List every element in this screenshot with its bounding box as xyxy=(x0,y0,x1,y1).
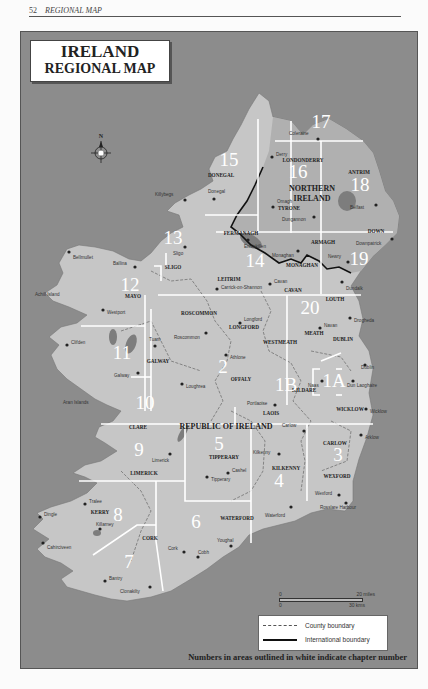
town-label: Loughrea xyxy=(186,384,206,389)
chapter-number: 7 xyxy=(124,551,134,572)
town-label: Bellmullet xyxy=(73,255,94,260)
town-label: Tuam xyxy=(149,337,161,342)
town-dot-icon xyxy=(364,407,367,410)
country-label: NORTHERN xyxy=(289,184,335,193)
county-label: LIMERICK xyxy=(130,470,157,476)
town-label: Cavan xyxy=(274,279,288,284)
town-label: Longford xyxy=(244,317,263,322)
scale-km-end: 30 kms xyxy=(349,602,365,608)
scale-miles-end: 20 miles xyxy=(356,591,375,597)
county-label: CAVAN xyxy=(284,287,302,293)
county-label: ROSCOMMON xyxy=(181,310,217,316)
scale-km-start: 0 xyxy=(279,602,282,608)
chapter-number: 10 xyxy=(136,392,155,413)
map-title-line1: IRELAND xyxy=(31,43,169,60)
town-label: Donegal xyxy=(208,189,225,194)
county-label: ARMAGH xyxy=(311,239,335,245)
county-label: WEXFORD xyxy=(323,473,350,479)
compass-north-label: N xyxy=(99,133,104,139)
chapter-number: 14 xyxy=(246,250,266,271)
compass-rose-icon: N xyxy=(91,133,111,163)
town-dot-icon xyxy=(296,249,299,252)
county-label: LEITRIM xyxy=(217,276,240,282)
town-dot-icon xyxy=(289,505,292,508)
town-label: Cashel xyxy=(232,468,246,473)
town-dot-icon xyxy=(340,280,343,283)
town-label: Ballina xyxy=(113,261,127,266)
county-label: WICKLOW xyxy=(336,406,364,412)
county-label: SLIGO xyxy=(165,264,181,270)
town-label: Cahirciveen xyxy=(47,545,72,550)
town-label: Clifden xyxy=(71,340,86,345)
county-label: MONAGHAN xyxy=(286,262,318,268)
county-label: WATERFORD xyxy=(220,515,254,521)
town-label: Youghal xyxy=(217,538,233,543)
town-marker: Dublin xyxy=(361,363,374,370)
town-dot-icon xyxy=(101,308,104,311)
county-label: CORK xyxy=(142,535,158,541)
town-dot-icon xyxy=(38,515,41,518)
town-label: Kilkenny xyxy=(253,450,271,455)
page-header: 52 REGIONAL MAP xyxy=(29,0,401,17)
town-dot-icon xyxy=(226,471,229,474)
town-dot-icon xyxy=(204,331,207,334)
chapter-number: 2 xyxy=(218,356,228,377)
town-dot-icon xyxy=(359,433,362,436)
map-legend: County boundary International boundary xyxy=(258,615,388,651)
town-label: Achill Island xyxy=(35,292,60,297)
town-dot-icon xyxy=(83,502,86,505)
town-label: Westport xyxy=(107,310,126,315)
county-label: DUBLIN xyxy=(333,336,353,342)
town-dot-icon xyxy=(103,579,106,582)
ireland-map: N ColeraineDerryKillybegsDonegalOmaghDun… xyxy=(21,32,417,668)
chapter-number: 17 xyxy=(312,111,331,132)
section-title: REGIONAL MAP xyxy=(45,6,102,15)
town-label: Dungannon xyxy=(282,217,306,222)
town-label: Enniskillen xyxy=(244,244,266,249)
town-marker: Aran Islands xyxy=(63,400,89,405)
chapter-number: 1B xyxy=(275,374,297,395)
chapter-number: 5 xyxy=(214,433,224,454)
town-marker: Carrick-on-Shannon xyxy=(215,285,262,291)
town-label: Galway xyxy=(114,373,130,378)
town-label: Cobh xyxy=(198,550,209,555)
town-dot-icon xyxy=(374,203,377,206)
county-label: LONGFORD xyxy=(229,324,259,330)
chapter-number: 6 xyxy=(191,511,201,532)
town-dot-icon xyxy=(348,316,351,319)
town-label: Roscommon xyxy=(174,335,200,340)
county-label: TIPPERARY xyxy=(209,454,239,460)
chapter-number: 9 xyxy=(134,439,144,460)
town-label: Newry xyxy=(328,254,342,259)
county-label: DOWN xyxy=(368,228,385,234)
town-dot-icon xyxy=(133,265,136,268)
chapter-number: 12 xyxy=(121,274,140,295)
town-label: Dublin xyxy=(361,365,374,370)
town-dot-icon xyxy=(390,237,393,240)
town-label: Wexford xyxy=(315,491,332,496)
town-dot-icon xyxy=(302,429,305,432)
town-label: Dundalk xyxy=(346,286,364,291)
town-dot-icon xyxy=(205,475,208,478)
town-dot-icon xyxy=(65,343,68,346)
town-label: Dingle xyxy=(44,512,57,517)
town-dot-icon xyxy=(136,371,139,374)
country-label: REPUBLIC OF IRELAND xyxy=(179,422,272,431)
county-label: TYRONE xyxy=(278,205,301,211)
town-dot-icon xyxy=(215,287,218,290)
town-dot-icon xyxy=(183,198,186,201)
county-label: LAOIS xyxy=(263,410,279,416)
scale-bar: 0 20 miles 0 30 kms xyxy=(279,598,375,608)
chapter-number: 1A xyxy=(322,370,346,391)
town-label: Limerick xyxy=(152,458,170,463)
map-footnote: Numbers in areas outlined in white indic… xyxy=(21,652,407,662)
town-dot-icon xyxy=(273,403,276,406)
county-label: LOUTH xyxy=(326,296,345,302)
town-label: Killarney xyxy=(96,522,114,527)
county-label: MEATH xyxy=(304,330,323,336)
town-label: Killybegs xyxy=(155,192,174,197)
town-label: Waterford xyxy=(265,513,285,518)
town-label: Rosslare Harbour xyxy=(320,505,356,510)
town-dot-icon xyxy=(196,555,199,558)
town-dot-icon xyxy=(212,197,215,200)
